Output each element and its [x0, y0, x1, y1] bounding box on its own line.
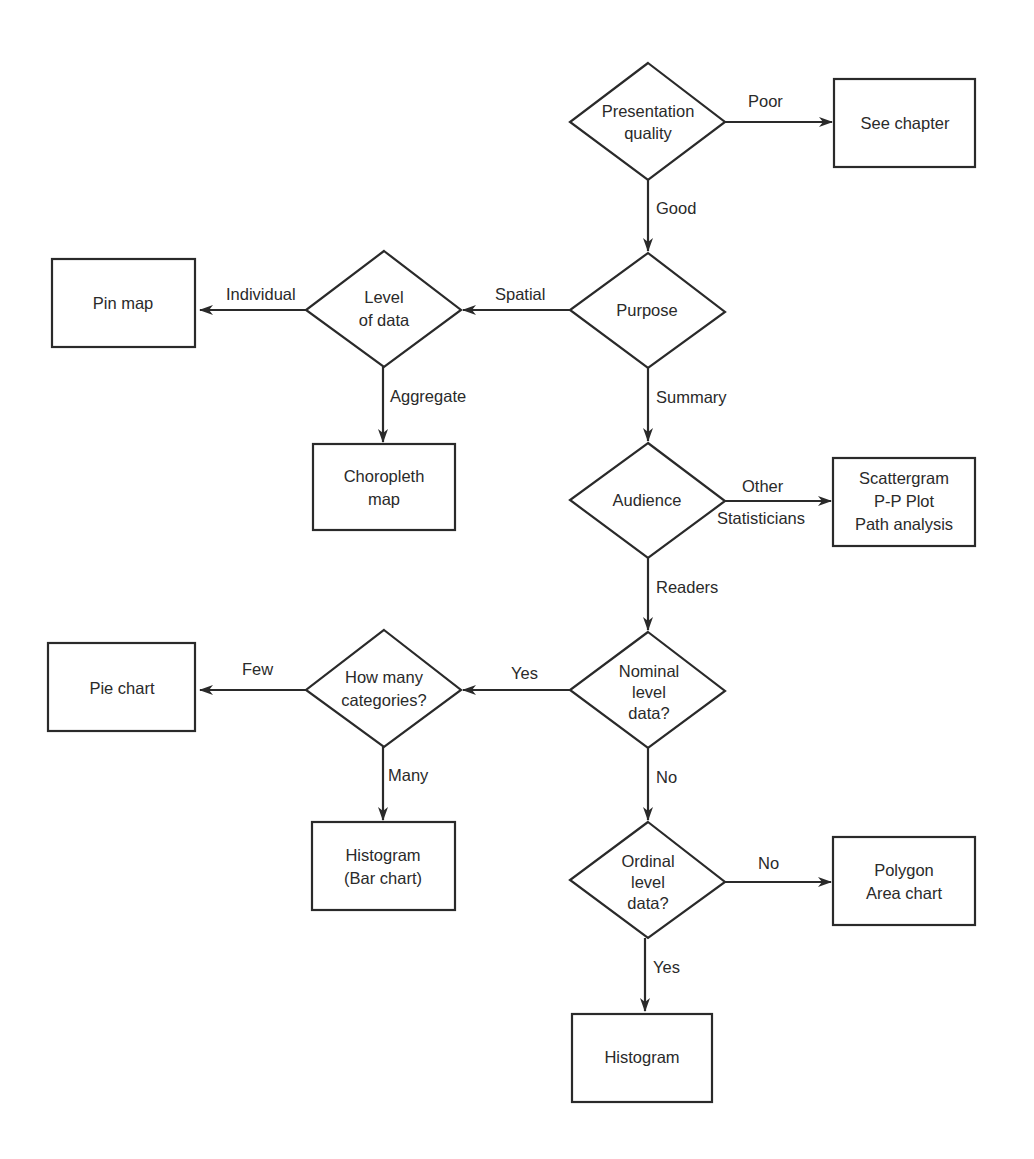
scattergram-line-2: P-P Plot [874, 492, 935, 510]
purpose-line-1: Purpose [616, 301, 677, 319]
edge-label-poor: Poor [748, 92, 783, 110]
edge-poor: Poor [725, 92, 832, 122]
edge-label-few: Few [242, 660, 273, 678]
edge-label-nominal-no: No [656, 768, 677, 786]
decision-ordinal-level-data: Ordinal level data? [570, 822, 725, 938]
scattergram-line-1: Scattergram [859, 469, 949, 487]
edge-label-ordinal-yes: Yes [653, 958, 680, 976]
edge-label-spatial: Spatial [495, 285, 545, 303]
decision-level-of-data: Level of data [306, 251, 461, 367]
edge-readers: Readers [648, 558, 718, 630]
how-many-line-1: How many [345, 668, 424, 686]
edge-summary: Summary [648, 368, 727, 441]
edge-label-aggregate: Aggregate [390, 387, 466, 405]
box-polygon-area-chart: Polygon Area chart [833, 837, 975, 925]
histogram-bar-line-2: (Bar chart) [344, 869, 422, 887]
nominal-line-2: level [632, 683, 666, 701]
nominal-line-1: Nominal [619, 662, 680, 680]
polygon-line-2: Area chart [866, 884, 943, 902]
level-of-data-line-2: of data [359, 311, 410, 329]
edge-ordinal-yes: Yes [645, 938, 680, 1011]
edge-label-good: Good [656, 199, 696, 217]
audience-line-1: Audience [613, 491, 682, 509]
box-scattergram: Scattergram P-P Plot Path analysis [833, 458, 975, 546]
box-histogram: Histogram [572, 1014, 712, 1102]
choropleth-line-1: Choropleth [344, 467, 425, 485]
pie-chart-line-1: Pie chart [89, 679, 155, 697]
decision-how-many-categories: How many categories? [306, 630, 461, 747]
ordinal-line-3: data? [627, 894, 668, 912]
choropleth-line-2: map [368, 490, 400, 508]
decision-audience: Audience [570, 443, 725, 558]
ordinal-line-1: Ordinal [621, 852, 674, 870]
see-chapter-line-1: See chapter [861, 114, 950, 132]
edge-spatial: Spatial [463, 285, 570, 310]
edge-good: Good [648, 180, 696, 251]
decision-presentation-quality: Presentation quality [570, 63, 725, 180]
edge-nominal-yes: Yes [463, 664, 570, 690]
edge-label-readers: Readers [656, 578, 718, 596]
edge-other-statisticians: Other Statisticians [717, 477, 831, 527]
polygon-line-1: Polygon [874, 861, 934, 879]
edge-label-individual: Individual [226, 285, 296, 303]
box-see-chapter: See chapter [834, 79, 975, 167]
box-histogram-bar-chart: Histogram (Bar chart) [312, 822, 455, 910]
box-pie-chart: Pie chart [48, 643, 195, 731]
edge-many: Many [383, 747, 429, 820]
histogram-line-1: Histogram [604, 1048, 679, 1066]
ordinal-line-2: level [631, 873, 665, 891]
edge-label-many: Many [388, 766, 429, 784]
edge-few: Few [200, 660, 306, 690]
edge-nominal-no: No [648, 748, 677, 820]
edge-label-summary: Summary [656, 388, 727, 406]
edge-label-other: Other [742, 477, 784, 495]
decision-purpose: Purpose [570, 253, 725, 368]
edge-ordinal-no: No [725, 854, 831, 882]
box-choropleth-map: Choropleth map [313, 444, 455, 530]
histogram-bar-line-1: Histogram [345, 846, 420, 864]
decision-nominal-level-data: Nominal level data? [570, 632, 725, 748]
edge-label-statisticians: Statisticians [717, 509, 805, 527]
pin-map-line-1: Pin map [93, 294, 154, 312]
how-many-line-2: categories? [341, 691, 426, 709]
nominal-line-3: data? [628, 704, 669, 722]
level-of-data-line-1: Level [364, 288, 403, 306]
edge-aggregate: Aggregate [383, 367, 466, 442]
flowchart: Poor Good Spatial Individual Aggregate S… [0, 0, 1034, 1159]
scattergram-line-3: Path analysis [855, 515, 953, 533]
edge-individual: Individual [200, 285, 306, 310]
edge-label-ordinal-no: No [758, 854, 779, 872]
presentation-quality-line-2: quality [624, 124, 672, 142]
edge-label-nominal-yes: Yes [511, 664, 538, 682]
box-pin-map: Pin map [52, 259, 195, 347]
presentation-quality-line-1: Presentation [602, 102, 695, 120]
